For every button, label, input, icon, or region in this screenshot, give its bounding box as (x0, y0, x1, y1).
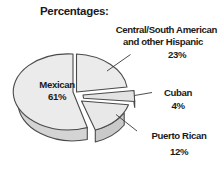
label-puerto-rican-value: 12% (170, 146, 189, 157)
pie-chart-figure: Percentages: (0, 0, 218, 170)
pie-chart-svg: Percentages: (0, 0, 218, 170)
label-cuban-value: 4% (171, 100, 185, 111)
label-mexican-name: Mexican (39, 79, 75, 90)
label-central-south-line1: Central/South American (116, 24, 218, 35)
label-central-south-value: 23% (168, 49, 187, 60)
label-cuban-name: Cuban (164, 87, 193, 98)
label-central-south-line2: and other Hispanic (123, 36, 204, 47)
label-puerto-rican-name: Puerto Rican (152, 130, 207, 141)
chart-title: Percentages: (40, 5, 109, 17)
label-mexican-value: 61% (48, 91, 67, 102)
